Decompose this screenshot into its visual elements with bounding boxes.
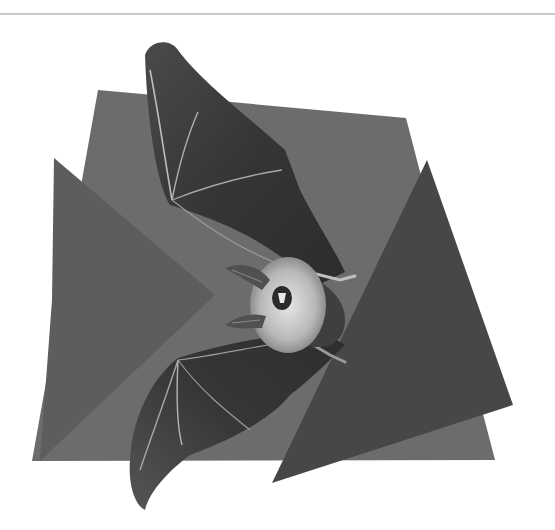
bat-composition: [0, 0, 555, 530]
